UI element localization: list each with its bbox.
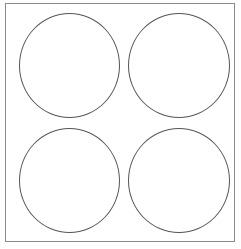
circle-bottom-left xyxy=(19,128,120,233)
circle-top-right xyxy=(128,13,230,118)
circle-bottom-right xyxy=(128,128,230,233)
circle-top-left xyxy=(19,13,120,118)
